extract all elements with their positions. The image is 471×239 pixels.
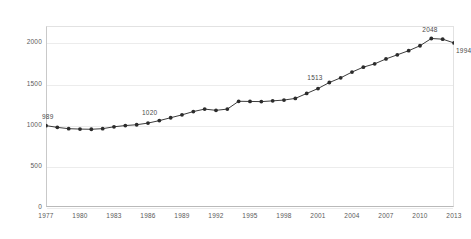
data-point-label: 1513 [307,74,322,81]
x-tick-label: 1980 [63,212,97,220]
y-tick-label: 0 [2,203,42,210]
data-point [123,124,127,128]
x-tick-label: 2001 [301,212,335,220]
x-tick-label: 1995 [233,212,267,220]
data-point [112,125,116,129]
gridline-0 [47,208,453,209]
data-point [418,44,422,48]
data-point [225,107,229,111]
data-point [429,37,433,41]
data-point [384,57,388,61]
data-point [441,37,445,41]
x-tick-label: 1977 [29,212,63,220]
data-point [169,116,173,120]
data-point [146,121,150,125]
x-tick-label: 2010 [403,212,437,220]
data-point [191,110,195,114]
data-point [327,81,331,85]
data-point [46,124,48,128]
x-tick-label: 2007 [369,212,403,220]
data-point-label: 1020 [142,109,157,116]
x-tick-label: 1992 [199,212,233,220]
data-point [350,70,354,74]
data-point [248,100,252,104]
data-point [339,76,343,80]
data-point-label: 2048 [422,26,437,33]
data-point [407,49,411,53]
x-tick-label: 1989 [165,212,199,220]
series-line [46,39,454,130]
y-tick-label: 1000 [2,121,42,128]
data-point [67,127,71,131]
y-tick-label: 1500 [2,80,42,87]
data-point [395,53,399,57]
x-tick-label: 1998 [267,212,301,220]
data-point [237,99,241,103]
data-point [78,127,82,131]
data-point [316,87,320,91]
data-point [135,123,139,127]
data-point [214,108,218,112]
data-point [282,98,286,102]
data-point [101,127,105,131]
data-point [203,107,207,111]
data-point [452,41,454,45]
data-point [55,125,59,129]
data-point [373,62,377,66]
data-point [271,99,275,103]
x-tick-label: 2004 [335,212,369,220]
data-point [361,65,365,69]
x-tick-label: 1983 [97,212,131,220]
x-tick-label: 1986 [131,212,165,220]
data-point [305,92,309,96]
x-axis: 1977198019831986198919921995199820012004… [46,212,454,226]
y-tick-label: 2000 [2,38,42,45]
y-tick-label: 500 [2,162,42,169]
x-tick-label: 2013 [437,212,471,220]
data-point [293,97,297,101]
y-axis: 0500100015002000 [0,26,42,207]
data-point [89,127,93,131]
data-point [259,100,263,104]
data-point [157,119,161,123]
data-point-label: 1994 [456,47,471,54]
data-point-label: 989 [42,113,53,120]
data-series [46,26,454,207]
data-point [180,113,184,117]
